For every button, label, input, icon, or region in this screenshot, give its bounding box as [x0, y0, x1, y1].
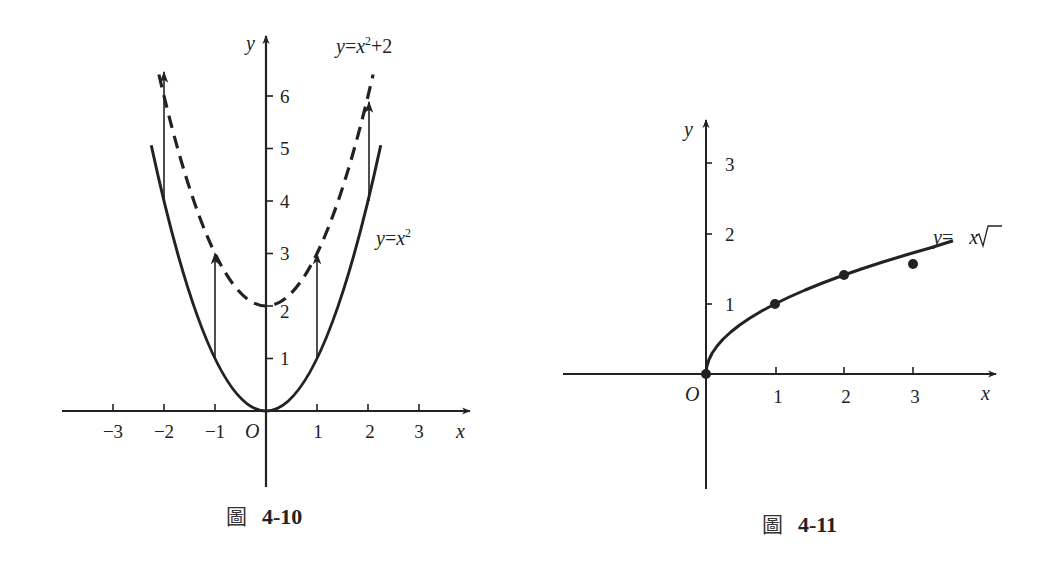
x-tick-label: −3 [103, 421, 123, 442]
x-tick-label: −2 [154, 421, 174, 442]
y-axis-label: y [682, 118, 693, 141]
figure-caption-number: 4-11 [798, 512, 837, 537]
svg-text:y=x: y=x [931, 226, 978, 249]
x-ticks [776, 367, 913, 374]
x-axis-label: x [980, 382, 990, 404]
y-axis-label: y [244, 32, 255, 55]
x-tick-label: −1 [205, 421, 225, 442]
x-tick-label: 3 [414, 421, 424, 442]
figure-canvas: −3 −2 −1 1 2 3 1 2 3 4 5 6 O x y y=x2+2 … [0, 0, 1048, 568]
figure-4-10: −3 −2 −1 1 2 3 1 2 3 4 5 6 O x y y=x2+2 … [62, 32, 470, 529]
label-y-sqrt-x: y=x [931, 226, 1002, 249]
data-point [839, 270, 849, 280]
figure-4-11: 1 2 3 1 2 3 O x y y=x 圖 4-11 [563, 118, 1002, 537]
figure-caption-char: 圖 [226, 505, 247, 529]
label-y-x2-plus-2: y=x2+2 [334, 34, 392, 58]
y-tick-label: 2 [280, 301, 290, 322]
y-tick-label: 4 [280, 191, 290, 212]
y-tick-label: 1 [280, 348, 290, 369]
data-point [770, 299, 780, 309]
figure-caption-number: 4-10 [262, 504, 302, 529]
y-tick-label: 3 [725, 154, 735, 175]
x-tick-label: 3 [910, 386, 920, 407]
y-tick-label: 2 [725, 224, 735, 245]
radical-sign [976, 226, 1002, 246]
x-axis-label: x [455, 420, 465, 442]
origin-label: O [245, 420, 259, 442]
label-y-x2: y=x2 [374, 226, 411, 250]
origin-label: O [685, 383, 699, 405]
data-point [701, 369, 711, 379]
x-tick-label: 1 [773, 386, 783, 407]
data-point [908, 259, 918, 269]
y-tick-label: 6 [280, 86, 290, 107]
y-tick-label: 1 [725, 294, 735, 315]
x-tick-label: 1 [313, 421, 323, 442]
figure-caption-char: 圖 [762, 513, 783, 537]
x-tick-label: 2 [841, 386, 851, 407]
y-tick-label: 5 [280, 138, 290, 159]
y-tick-label: 3 [280, 243, 290, 264]
x-tick-label: 2 [365, 421, 375, 442]
